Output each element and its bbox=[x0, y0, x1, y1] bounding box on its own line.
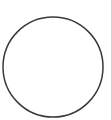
pie-chart-figure bbox=[0, 0, 111, 120]
pie-chart-svg bbox=[0, 0, 111, 120]
pie-outline-circle bbox=[3, 17, 103, 117]
